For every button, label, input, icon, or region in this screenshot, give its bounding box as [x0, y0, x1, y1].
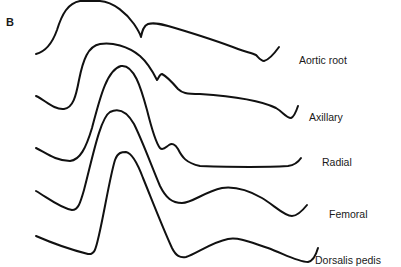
label-axillary: Axillary [309, 112, 343, 123]
trace-radial [36, 66, 301, 167]
label-dorsalis-pedis: Dorsalis pedis [315, 255, 381, 266]
trace-femoral [36, 110, 307, 216]
label-femoral: Femoral [329, 209, 368, 220]
trace-axillary [36, 44, 298, 119]
pulse-waveform-figure: B Aortic root Axillary Radial Femoral Do… [0, 0, 401, 267]
label-aortic-root: Aortic root [299, 55, 347, 66]
panel-letter: B [6, 17, 14, 28]
waveform-canvas [0, 0, 401, 267]
label-radial: Radial [322, 157, 352, 168]
trace-aortic-root [36, 1, 279, 61]
